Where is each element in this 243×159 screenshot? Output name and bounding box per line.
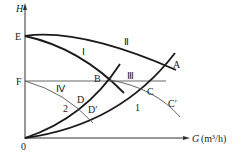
x-axis-label-unit: (m³/h) [201,133,226,145]
axes [23,3,190,140]
point-D-label: D [77,94,84,105]
point-C-prime-label: C′ [168,98,177,109]
point-B-label: B [94,73,101,84]
point-F-label: F [16,76,22,87]
point-D-prime-label: D′ [88,104,97,115]
curve-III-label: Ⅲ [127,70,134,81]
curve-II-label: Ⅱ [124,36,129,47]
origin-label: 0 [21,141,26,152]
system-curve-2-label: 2 [63,103,68,114]
x-axis-label-var: G [192,133,199,144]
y-axis-arrow-icon [23,3,27,10]
y-axis-label: H [15,3,24,14]
pump-curve-diagram: H E F 0 Ⅱ Ⅰ Ⅲ Ⅳ 1 2 A B C C′ D D′ G (m³/… [0,0,243,159]
x-axis-arrow-icon [183,136,190,140]
curve-I-label: Ⅰ [82,46,85,57]
curve-II [25,35,176,70]
point-C-label: C [147,86,154,97]
curve-IV-label: Ⅳ [56,83,66,94]
system-curve-1-label: 1 [135,102,140,113]
point-A-label: A [173,59,181,70]
point-E-label: E [15,31,21,42]
